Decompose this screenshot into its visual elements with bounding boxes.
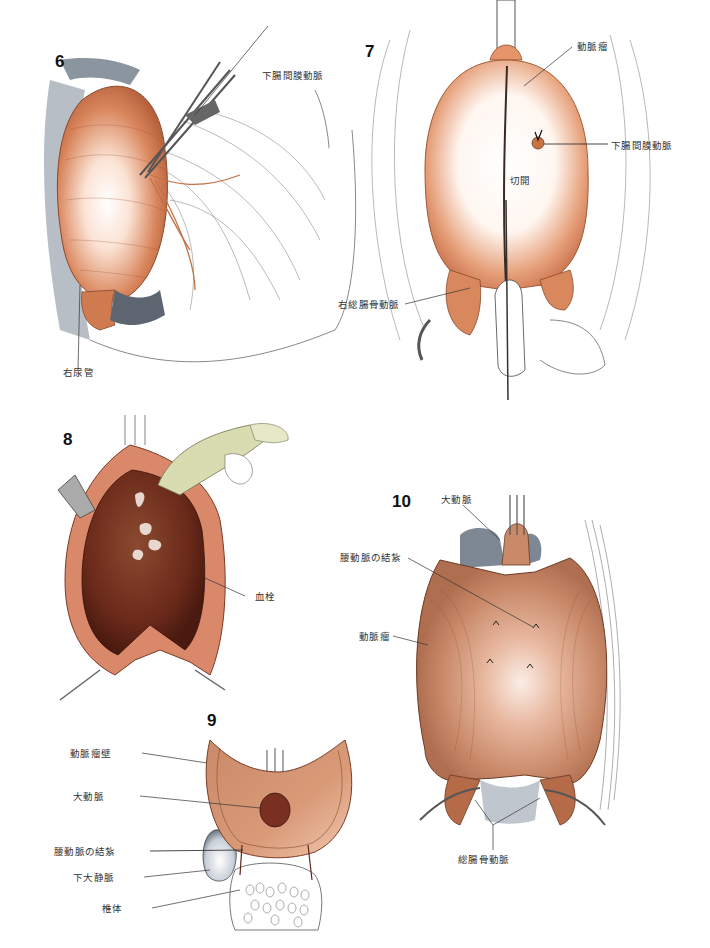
label-vertebral-body: 椎体 (102, 901, 123, 915)
label-thrombus: 血栓 (255, 589, 276, 603)
figure-10: 10 大動脈 腰動脈の結紮 動脈瘤 総腸骨動脈 (330, 480, 710, 880)
label-lumbar-artery-ligation: 腰動脈の結紮 (54, 844, 116, 858)
figure-6-illustration (0, 0, 360, 400)
label-aneurysm: 動脈瘤 (577, 39, 608, 53)
label-aneurysm: 動脈瘤 (359, 629, 390, 643)
label-aorta: 大動脈 (73, 789, 104, 803)
figure-8: 8 血栓 (40, 400, 360, 700)
label-aneurysm-wall: 動脈瘤壁 (70, 746, 111, 760)
figure-8-number: 8 (63, 430, 72, 450)
label-inferior-mesenteric-artery: 下腸間膜動脈 (611, 138, 673, 152)
figure-10-illustration (330, 480, 710, 880)
figure-6: 6 下腸間膜動脈 右尿管 (0, 0, 360, 400)
label-lumbar-artery-ligation: 腰動脈の結紮 (340, 550, 402, 564)
figure-8-illustration (40, 400, 360, 700)
figure-10-number: 10 (392, 492, 411, 512)
label-right-common-iliac-artery: 右総腸骨動脈 (338, 297, 400, 311)
label-common-iliac-arteries: 総腸骨動脈 (458, 852, 510, 866)
figure-9-number: 9 (207, 711, 216, 731)
figure-6-number: 6 (55, 52, 64, 72)
label-inferior-vena-cava: 下大静脈 (73, 870, 114, 884)
label-aorta: 大動脈 (441, 492, 472, 506)
label-inferior-mesenteric-artery: 下腸間膜動脈 (262, 68, 324, 82)
figure-7: 7 動脈瘤 下腸間膜動脈 切開 右総腸骨動脈 (330, 0, 710, 400)
figure-7-number: 7 (365, 42, 374, 62)
figure-7-illustration (330, 0, 710, 400)
label-incision: 切開 (510, 173, 531, 187)
label-right-ureter: 右尿管 (63, 365, 94, 379)
